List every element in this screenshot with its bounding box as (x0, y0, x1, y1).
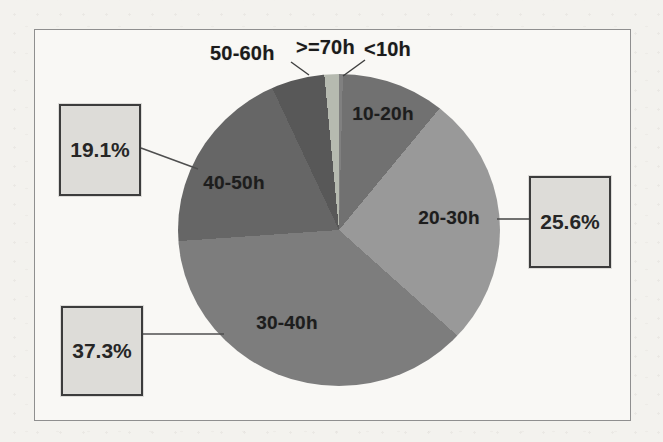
slice-label-20-30h: 20-30h (418, 207, 479, 229)
callout-box-20-30h: 25.6% (529, 176, 611, 268)
slice-label-10-20h: 10-20h (352, 103, 413, 125)
slice-label-30-40h: 30-40h (256, 312, 317, 334)
slice-label-lt10h: <10h (364, 38, 411, 61)
slice-label-ge70h: >=70h (296, 36, 355, 59)
callout-box-30-40h: 37.3% (61, 306, 143, 396)
leader-line-19-1 (141, 148, 198, 169)
callout-value-37-3: 37.3% (72, 339, 132, 363)
callout-box-40-50h: 19.1% (59, 104, 141, 196)
callout-value-19-1: 19.1% (70, 138, 130, 162)
slice-label-50-60h: 50-60h (210, 42, 275, 65)
leader-line-50-60h (291, 62, 309, 75)
scanned-page: 50-60h >=70h <10h 10-20h 20-30h 30-40h 4… (0, 0, 663, 442)
callout-value-25-6: 25.6% (540, 210, 600, 234)
pie-chart (178, 74, 500, 386)
chart-frame: 50-60h >=70h <10h 10-20h 20-30h 30-40h 4… (34, 29, 631, 421)
slice-label-40-50h: 40-50h (203, 172, 264, 194)
